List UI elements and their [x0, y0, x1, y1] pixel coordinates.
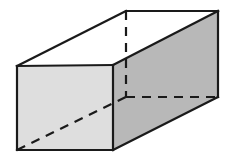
- front-face: [17, 65, 113, 150]
- top-front-edge: [17, 65, 113, 66]
- rectangular-prism-diagram: [0, 0, 228, 156]
- figure-canvas: [0, 0, 228, 156]
